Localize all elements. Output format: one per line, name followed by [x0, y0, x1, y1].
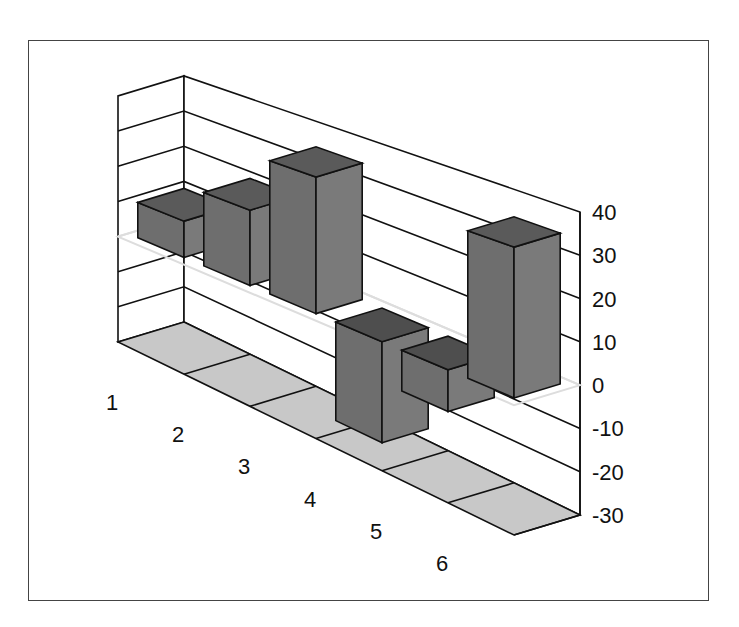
bar-6-side [514, 233, 560, 398]
category-label: 5 [370, 519, 382, 544]
bar-4-front [336, 322, 382, 443]
y-tick-label: 10 [592, 330, 616, 355]
category-label: 1 [106, 390, 118, 415]
y-tick-label: 20 [592, 287, 616, 312]
category-label: 2 [172, 422, 184, 447]
bar-3-front [270, 161, 316, 314]
category-label: 3 [238, 454, 250, 479]
y-tick-label: 40 [592, 200, 616, 225]
category-label: 4 [304, 487, 316, 512]
y-tick-label: 30 [592, 243, 616, 268]
bar-3-side [316, 163, 362, 314]
category-label: 6 [436, 551, 448, 576]
3d-bar-chart: 403020100-10-20-30123456 [0, 0, 739, 627]
y-tick-label: -10 [592, 416, 624, 441]
y-tick-label: 0 [592, 373, 604, 398]
y-tick-label: -20 [592, 460, 624, 485]
y-tick-label: -30 [592, 503, 624, 528]
bar-6-front [468, 231, 514, 398]
